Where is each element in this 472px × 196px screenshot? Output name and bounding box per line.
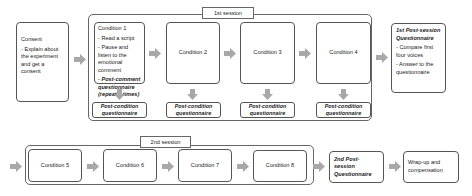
condition-2-title: Condition 2 bbox=[179, 49, 207, 57]
arrow-right-icon bbox=[149, 48, 161, 59]
condition-8-title: Condition 8 bbox=[266, 162, 294, 170]
condition-7-box: Condition 7 bbox=[178, 149, 232, 182]
consent-bullet: - Explain about the experiment and get a… bbox=[21, 46, 64, 76]
arrow-right-icon bbox=[10, 161, 22, 172]
condition-4-title: Condition 4 bbox=[329, 49, 357, 57]
wrapup-title: Wrap-up and compensation bbox=[408, 159, 454, 174]
post-session1-title: 1st Post-session Questionnaire bbox=[396, 27, 441, 42]
condition-1-bullet: - Read a script bbox=[98, 35, 141, 43]
arrow-right-icon bbox=[389, 161, 401, 172]
post-session2-title: 2nd Post-session Questionnaire bbox=[334, 156, 379, 179]
post-condition-box: Post-condition questionnaire bbox=[92, 102, 147, 118]
condition-6-title: Condition 6 bbox=[116, 162, 144, 170]
wrapup-box: Wrap-up and compensation bbox=[403, 151, 459, 183]
post-session1-box: 1st Post-session Questionnaire - Compare… bbox=[391, 23, 446, 93]
arrow-down-icon bbox=[262, 89, 273, 100]
condition-6-box: Condition 6 bbox=[103, 149, 157, 182]
arrow-down-icon bbox=[114, 89, 125, 100]
arrow-right-icon bbox=[313, 161, 325, 172]
arrow-down-icon bbox=[338, 89, 349, 100]
post-condition-box: Post-condition questionnaire bbox=[240, 102, 295, 118]
condition-7-title: Condition 7 bbox=[191, 162, 219, 170]
post-condition-label: Post-condition questionnaire bbox=[167, 103, 220, 117]
condition-2-box: Condition 2 bbox=[166, 22, 220, 84]
arrow-right-icon bbox=[376, 52, 388, 63]
post-session1-bullet: - Answer to the questionnaire bbox=[396, 61, 441, 76]
consent-title: Consent bbox=[21, 36, 64, 44]
arrow-right-icon bbox=[74, 54, 86, 65]
post-condition-label: Post-condition questionnaire bbox=[317, 103, 370, 117]
arrow-right-icon bbox=[224, 48, 236, 59]
post-condition-box: Post-condition questionnaire bbox=[166, 102, 221, 118]
condition-3-title: Condition 3 bbox=[253, 49, 281, 57]
condition-5-title: Condition 5 bbox=[41, 162, 69, 170]
post-condition-box: Post-condition questionnaire bbox=[316, 102, 371, 118]
condition-5-box: Condition 5 bbox=[28, 149, 82, 182]
post-condition-label: Post-condition questionnaire bbox=[93, 103, 146, 117]
arrow-right-icon bbox=[299, 48, 311, 59]
arrow-right-icon bbox=[237, 161, 249, 172]
arrow-down-icon bbox=[187, 89, 198, 100]
arrow-right-icon bbox=[87, 161, 99, 172]
arrow-right-icon bbox=[162, 161, 174, 172]
condition-3-box: Condition 3 bbox=[240, 22, 295, 84]
condition-1-bullet: - Pause and listen to the emotional comm… bbox=[98, 44, 141, 74]
session2-label: 2nd session bbox=[140, 136, 191, 148]
condition-1-title: Condition 1 bbox=[98, 25, 141, 33]
session1-label: 1st session bbox=[202, 7, 254, 19]
condition-8-box: Condition 8 bbox=[253, 150, 307, 182]
condition-4-box: Condition 4 bbox=[316, 22, 371, 84]
condition-1-box: Condition 1 - Read a script - Pause and … bbox=[94, 22, 145, 84]
post-session2-box: 2nd Post-session Questionnaire bbox=[329, 151, 384, 183]
consent-box: Consent - Explain about the experiment a… bbox=[16, 22, 69, 102]
post-condition-label: Post-condition questionnaire bbox=[241, 103, 294, 117]
post-session1-bullet: - Compare first four voices bbox=[396, 44, 441, 59]
